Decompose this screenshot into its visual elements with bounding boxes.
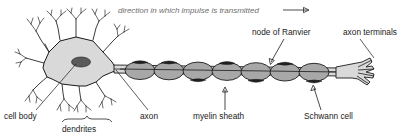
axon-terminals-label: axon terminals [343, 27, 397, 37]
node-of-ranvier-label: node of Ranvier [252, 27, 311, 37]
neuron-diagram: direction in which impulse is transmitte… [0, 0, 409, 136]
cell-body-label: cell body [4, 111, 38, 121]
direction-label: direction in which impulse is transmitte… [118, 6, 259, 15]
axon-label: axon [140, 111, 158, 121]
myelin-sheath-label: myelin sheath [193, 111, 245, 121]
schwann-cell-label: Schwann cell [304, 111, 353, 121]
dendrites-label: dendrites [62, 124, 96, 134]
